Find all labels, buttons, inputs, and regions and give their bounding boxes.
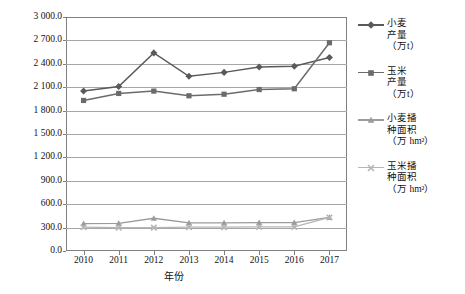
x-axis-tick-mark [154,251,155,255]
x-axis-tick-mark [119,251,120,255]
gridline [66,228,347,229]
legend-label: 小麦产量（万t） [387,18,420,53]
y-axis-tick-label: 1 500.0 [0,129,62,139]
legend-swatch [358,114,384,125]
y-axis-tick-mark [63,17,66,18]
legend-label-line: （万t） [387,41,420,53]
y-axis-tick-label: 2 400.0 [0,59,62,69]
y-axis-tick-label: 1 800.0 [0,106,62,116]
legend-item[interactable]: 小麦产量（万t） [358,18,465,53]
gridline [66,40,347,41]
legend-label-line: 玉米播 [387,161,434,173]
legend-label-line: 种面积 [387,125,434,137]
gridline [66,157,347,158]
legend-label-line: 产量 [387,30,420,42]
legend-label-line: 产量 [387,77,420,89]
legend-label-line: 玉米 [387,66,420,78]
legend-label-line: 小麦播 [387,113,434,125]
x-axis-tick-mark [329,251,330,255]
y-axis-tick-mark [63,251,66,252]
legend-label: 小麦播种面积（万 hm²） [387,113,434,148]
data-point-triangle [368,117,375,123]
x-axis-tick-mark [189,251,190,255]
legend-item[interactable]: 小麦播种面积（万 hm²） [358,113,465,148]
legend-label-line: 种面积 [387,172,434,184]
legend-label-line: （万t） [387,89,420,101]
y-axis-tick-label: 2 700.0 [0,35,62,45]
x-axis-title: 年份 [0,268,347,283]
legend-marker-square-icon [358,67,384,78]
y-axis-tick-label: 300.0 [0,223,62,233]
y-axis-tick-label: 0.0 [0,246,62,256]
gridline [66,87,347,88]
data-point-diamond [367,21,375,29]
y-axis-tick-label: 2 100.0 [0,82,62,92]
gridline [66,204,347,205]
gridline [66,111,347,112]
legend-marker-cross-icon [358,162,384,173]
legend-marker-diamond-icon [358,19,384,30]
x-axis-tick-label: 2017 [307,255,351,265]
x-axis-tick-mark [294,251,295,255]
legend-swatch [358,162,384,173]
legend-swatch [358,67,384,78]
y-axis-tick-label: 600.0 [0,199,62,209]
legend-label-line: （万 hm²） [387,136,434,148]
legend-marker-triangle-icon [358,114,384,125]
data-point-square [368,70,374,76]
legend-item[interactable]: 玉米产量（万t） [358,66,465,101]
legend-label: 玉米产量（万t） [387,66,420,101]
legend-label-line: （万 hm²） [387,184,434,196]
y-axis-tick-label: 3 000.0 [0,12,62,22]
x-axis-tick-mark [224,251,225,255]
x-axis-tick-mark [84,251,85,255]
x-axis-tick-mark [259,251,260,255]
gridline [66,134,347,135]
gridline [66,64,347,65]
gridline [66,181,347,182]
data-point-cross [368,165,374,171]
legend-item[interactable]: 玉米播种面积（万 hm²） [358,161,465,196]
y-axis-tick-label: 1 200.0 [0,152,62,162]
y-axis-tick-label: 900.0 [0,176,62,186]
legend-label-line: 小麦 [387,18,420,30]
legend-swatch [358,19,384,30]
chart-legend: 小麦产量（万t）玉米产量（万t）小麦播种面积（万 hm²）玉米播种面积（万 hm… [358,18,465,208]
chart-container: 0.0300.0600.0900.01 200.01 500.01 800.02… [0,0,465,294]
legend-label: 玉米播种面积（万 hm²） [387,161,434,196]
